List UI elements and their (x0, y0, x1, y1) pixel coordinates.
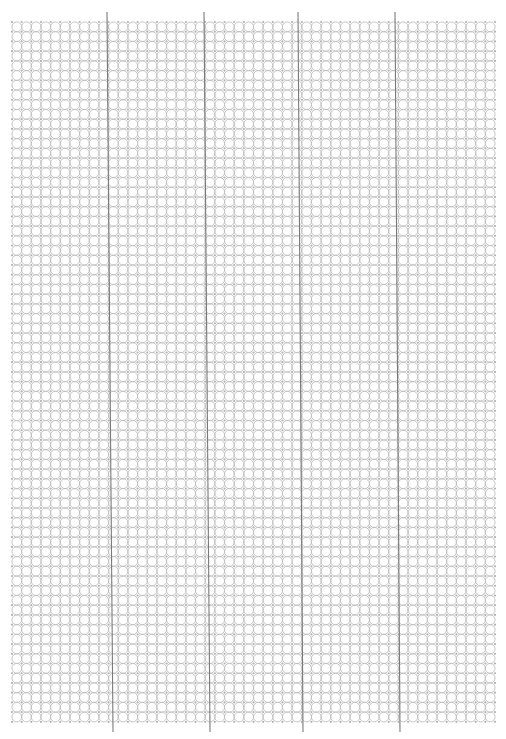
paper-sheet (0, 0, 506, 739)
circle-grid (11, 21, 496, 723)
circle-grid-pattern (0, 0, 506, 739)
